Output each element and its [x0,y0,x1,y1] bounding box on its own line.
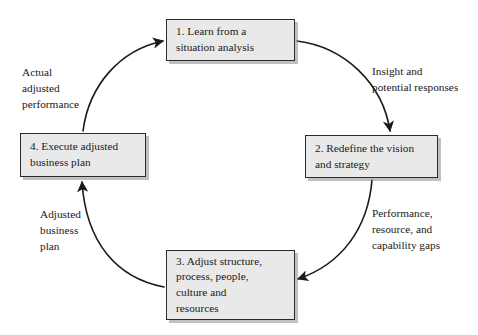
node-learn-from-situation-analysis[interactable]: 1. Learn from a situation analysis [166,19,295,61]
node-redefine-vision-strategy[interactable]: 2. Redefine the vision and strategy [305,135,438,178]
arc-node3-to-node4 [82,182,164,287]
node-2-label: 2. Redefine the vision and strategy [306,141,420,172]
arc-node4-to-node1 [83,41,163,131]
edge-label-performance-resource-capability-gaps: Performance, resource, and capability ga… [372,206,440,253]
cycle-diagram: 1. Learn from a situation analysis 2. Re… [0,0,478,335]
arc-node2-to-node3 [298,180,372,279]
node-3-label: 3. Adjust structure, process, people, cu… [167,254,268,316]
edge-label-insight-potential-responses: Insight and potential responses [372,64,458,96]
edge-label-adjusted-business-plan: Adjusted business plan [40,207,81,254]
edge-label-actual-adjusted-performance: Actual adjusted performance [22,65,79,112]
node-4-label: 4. Execute adjusted business plan [21,139,124,170]
node-1-label: 1. Learn from a situation analysis [167,24,260,55]
node-execute-adjusted-business-plan[interactable]: 4. Execute adjusted business plan [20,133,146,177]
node-adjust-structure-process[interactable]: 3. Adjust structure, process, people, cu… [166,250,295,320]
